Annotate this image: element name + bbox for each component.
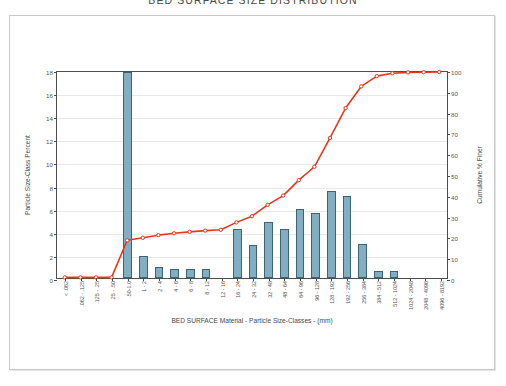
y-axis-left-tick-label: 6 (50, 207, 53, 214)
cumulative-marker (141, 236, 144, 239)
x-axis-tick-label: 256 - 384 (361, 247, 367, 281)
x-axis-tick-label: 6 - 8 (188, 247, 194, 281)
x-axis-tick-label: 192 - 256 (345, 247, 351, 281)
cumulative-marker (406, 71, 409, 74)
x-axis-tick-label: .50-1.0 (126, 247, 132, 281)
cumulative-marker (282, 194, 285, 197)
cumulative-marker (235, 221, 238, 224)
cumulative-marker (438, 70, 441, 73)
cumulative-marker (391, 72, 394, 75)
y-axis-left-tick-label: 10 (46, 161, 53, 168)
y-axis-right-tick-label: 40 (451, 193, 458, 200)
y-axis-left-tick-label: 18 (46, 69, 53, 76)
y-axis-right-tick-mark (447, 134, 450, 135)
cumulative-marker (313, 165, 316, 168)
cumulative-marker (188, 230, 191, 233)
y-axis-left-tick-label: 12 (46, 138, 53, 145)
cumulative-marker (126, 239, 129, 242)
plot-area: 024681012141618 0102030405060708090100 <… (56, 71, 448, 279)
x-axis-tick-label: 4096 - 8192 (439, 247, 445, 281)
chart-frame: Particle Size-Class Percent Cumulative %… (9, 15, 495, 370)
y-axis-right-tick-label: 80 (451, 110, 458, 117)
y-axis-right-tick-mark (447, 93, 450, 94)
y-axis-right-tick-mark (447, 72, 450, 73)
y-axis-left-label: Particle Size-Class Percent (24, 71, 36, 279)
cumulative-marker (250, 215, 253, 218)
y-axis-left-tick-label: 4 (50, 230, 53, 237)
x-axis-tick-label: 128 - 192 (329, 247, 335, 281)
x-axis-tick-label: 12 - 16 (220, 247, 226, 281)
y-axis-right-tick-label: 90 (451, 89, 458, 96)
x-axis-tick-label: .125 - .25 (94, 247, 100, 281)
cumulative-marker (266, 203, 269, 206)
y-axis-right-tick-label: 50 (451, 173, 458, 180)
x-axis-tick-label: .25 - .50 (110, 247, 116, 281)
y-axis-left-tick-label: 8 (50, 184, 53, 191)
cumulative-marker (328, 136, 331, 139)
x-axis-tick-label: 2048 - 4096 (423, 247, 429, 281)
cumulative-marker (172, 232, 175, 235)
cumulative-marker (422, 71, 425, 74)
cumulative-marker (204, 229, 207, 232)
y-axis-right-label: Cumulative % Finer (476, 71, 488, 279)
x-axis-tick-label: 96 - 128 (314, 247, 320, 281)
cumulative-marker (344, 106, 347, 109)
y-axis-right-tick-mark (447, 155, 450, 156)
x-axis-tick-label: 512 - 1024 (392, 247, 398, 281)
plot-area-wrapper: 024681012141618 0102030405060708090100 <… (56, 71, 448, 279)
y-axis-left-tick-label: 0 (50, 277, 53, 284)
x-axis-tick-label: 32 - 48 (267, 247, 273, 281)
y-axis-right-tick-label: 10 (451, 256, 458, 263)
x-axis-tick-label: 2 - 4 (157, 247, 163, 281)
x-axis-tick-label: 16 - 24 (235, 247, 241, 281)
cumulative-marker (375, 74, 378, 77)
x-axis-tick-label: < .062 (63, 247, 69, 281)
x-axis-tick-label: 384 - 512 (376, 247, 382, 281)
x-axis-tick-label: 1024 - 2048 (408, 247, 414, 281)
y-axis-left-tick-label: 14 (46, 115, 53, 122)
y-axis-right-tick-label: 20 (451, 235, 458, 242)
y-axis-right-tick-label: 100 (451, 69, 461, 76)
x-axis-tick-label: 48 - 64 (282, 247, 288, 281)
y-axis-right-tick-mark (447, 114, 450, 115)
y-axis-right-tick-label: 70 (451, 131, 458, 138)
x-axis-label: BED SURFACE Material - Particle Size-Cla… (56, 317, 448, 324)
y-axis-right-tick-mark (447, 218, 450, 219)
x-axis-tick-label: 64 - 96 (298, 247, 304, 281)
y-axis-right-tick-mark (447, 259, 450, 260)
y-axis-right-tick-mark (447, 280, 450, 281)
cumulative-marker (360, 85, 363, 88)
x-axis-tick-label: 24 - 32 (251, 247, 257, 281)
cumulative-marker (157, 233, 160, 236)
cumulative-marker (297, 178, 300, 181)
y-axis-right-tick-label: 0 (451, 277, 454, 284)
x-axis-tick-label: 8 - 12 (204, 247, 210, 281)
x-axis-tick-label: .062 - .125 (79, 247, 85, 281)
y-axis-right-tick-mark (447, 197, 450, 198)
chart-title: BED SURFACE SIZE DISTRIBUTION (0, 0, 506, 6)
y-axis-right-tick-label: 60 (451, 152, 458, 159)
y-axis-left-tick-label: 16 (46, 92, 53, 99)
y-axis-right-tick-label: 30 (451, 214, 458, 221)
x-axis-tick-label: 1 - 2 (141, 247, 147, 281)
x-axis-tick-label: 4 - 6 (173, 247, 179, 281)
y-axis-right-tick-mark (447, 176, 450, 177)
cumulative-marker (219, 228, 222, 231)
y-axis-left-tick-label: 2 (50, 253, 53, 260)
y-axis-left-tick-mark (54, 280, 57, 281)
y-axis-right-tick-mark (447, 238, 450, 239)
